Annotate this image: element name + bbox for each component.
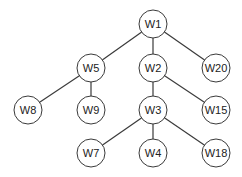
node-w20: W20 [202, 54, 230, 82]
node-label: W2 [145, 62, 162, 74]
node-w1: W1 [139, 10, 167, 38]
node-w3: W3 [139, 96, 167, 124]
node-label: W9 [83, 104, 100, 116]
edges-layer [28, 24, 216, 153]
node-w18: W18 [202, 139, 230, 167]
node-label: W1 [145, 18, 162, 30]
node-w15: W15 [202, 96, 230, 124]
node-w8: W8 [14, 96, 42, 124]
node-label: W4 [145, 147, 162, 159]
node-w5: W5 [77, 54, 105, 82]
node-label: W5 [83, 62, 100, 74]
nodes-layer: W1W5W2W20W8W9W3W15W7W4W18 [14, 10, 230, 167]
node-w7: W7 [77, 139, 105, 167]
node-w2: W2 [139, 54, 167, 82]
node-label: W3 [145, 104, 162, 116]
node-label: W7 [83, 147, 100, 159]
node-label: W20 [205, 62, 228, 74]
node-label: W18 [205, 147, 228, 159]
node-label: W8 [20, 104, 37, 116]
node-label: W15 [205, 104, 228, 116]
node-w9: W9 [77, 96, 105, 124]
node-w4: W4 [139, 139, 167, 167]
tree-diagram: W1W5W2W20W8W9W3W15W7W4W18 [0, 0, 242, 177]
